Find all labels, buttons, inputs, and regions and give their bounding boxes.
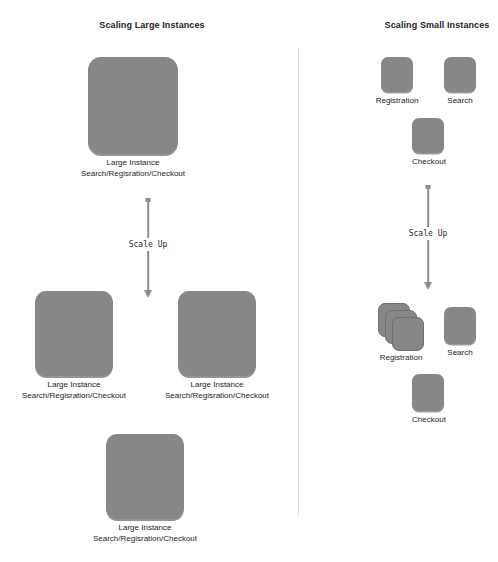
- caption-line-1: Large Instance: [137, 380, 297, 391]
- service-label-checkout: Checkout: [400, 415, 458, 425]
- service-box-search: [444, 307, 476, 344]
- caption-line-2: Search/Regisration/Checkout: [137, 391, 297, 402]
- left-scale-up-label: Scale Up: [125, 238, 172, 251]
- large-instance-box: [35, 291, 113, 376]
- left-panel-title: Scaling Large Instances: [62, 20, 242, 30]
- left-scale-up-arrow: Scale Up: [133, 198, 163, 298]
- service-label-search: Search: [432, 348, 488, 358]
- large-instance-caption: Large Instance Search/Regisration/Checko…: [137, 380, 297, 401]
- large-instance-caption: Large Instance Search/Regisration/Checko…: [65, 523, 225, 544]
- caption-line-2: Search/Regisration/Checkout: [0, 391, 154, 402]
- large-instance-box: [178, 291, 256, 376]
- arrow-head-icon: [424, 282, 432, 290]
- service-box-search: [444, 57, 476, 92]
- large-instance-caption: Large Instance Search/Regisration/Checko…: [0, 380, 154, 401]
- service-box-checkout: [412, 374, 444, 411]
- large-instance-caption: Large Instance Search/Regisration/Checko…: [43, 158, 223, 179]
- service-box-registration: [381, 57, 413, 92]
- arrow-head-icon: [144, 290, 152, 298]
- caption-line-1: Large Instance: [65, 523, 225, 534]
- caption-line-1: Large Instance: [43, 158, 223, 169]
- service-box-registration: [392, 317, 424, 351]
- caption-line-2: Search/Regisration/Checkout: [65, 534, 225, 545]
- caption-line-1: Large Instance: [0, 380, 154, 391]
- panel-divider: [298, 48, 299, 515]
- diagram-canvas: Scaling Large Instances Large Instance S…: [0, 0, 498, 562]
- right-scale-up-label: Scale Up: [405, 227, 452, 240]
- service-label-checkout: Checkout: [400, 157, 458, 167]
- large-instance-box: [88, 57, 178, 154]
- service-box-checkout: [412, 118, 444, 153]
- caption-line-2: Search/Regisration/Checkout: [43, 169, 223, 180]
- service-label-registration: Registration: [370, 353, 432, 363]
- service-label-search: Search: [432, 96, 488, 106]
- large-instance-box: [106, 434, 184, 519]
- right-panel-title: Scaling Small Instances: [378, 20, 496, 30]
- service-label-registration: Registration: [367, 96, 427, 106]
- right-scale-up-arrow: Scale Up: [413, 185, 443, 290]
